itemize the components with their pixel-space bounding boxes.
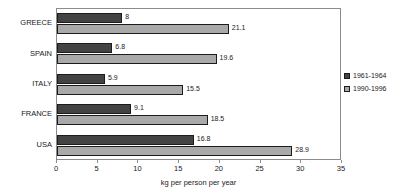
bar[interactable] (57, 115, 208, 125)
legend-entry[interactable]: 1990-1996 (344, 83, 410, 94)
x-tick-mark (178, 160, 179, 163)
chart-legend: 1961-19641990-1996 (344, 70, 410, 96)
bar-slot: 18.5 (57, 115, 340, 125)
bar-value-label: 28.9 (292, 145, 309, 155)
x-tick-mark (56, 160, 57, 163)
x-tick-mark (341, 160, 342, 163)
bar[interactable] (57, 146, 292, 156)
bar-slot: 5.9 (57, 74, 340, 84)
bar-group: 16.828.9 (57, 131, 340, 161)
x-tick-label: 15 (174, 164, 182, 173)
x-tick-label: 35 (337, 164, 345, 173)
category-label: USA (0, 140, 52, 150)
bar-value-label: 21.1 (229, 23, 246, 33)
bar-slot: 6.8 (57, 43, 340, 53)
x-tick-mark (97, 160, 98, 163)
plot-area: 821.16.819.65.915.59.118.516.828.9 (56, 8, 341, 160)
legend-label: 1990-1996 (353, 84, 386, 93)
bar[interactable] (57, 104, 131, 114)
x-axis: 05101520253035 (56, 160, 341, 174)
x-tick-label: 0 (54, 164, 58, 173)
x-tick-mark (219, 160, 220, 163)
bar[interactable] (57, 74, 105, 84)
x-tick-label: 5 (95, 164, 99, 173)
bar-slot: 16.8 (57, 135, 340, 145)
bar-slot: 19.6 (57, 54, 340, 64)
category-axis: GREECESPAINITALYFRANCEUSA (0, 8, 52, 160)
x-tick-label: 25 (255, 164, 263, 173)
bar-slot: 28.9 (57, 146, 340, 156)
x-tick-mark (137, 160, 138, 163)
x-tick-label: 20 (215, 164, 223, 173)
bar-group: 821.1 (57, 9, 340, 39)
plot-inner: 821.16.819.65.915.59.118.516.828.9 (57, 9, 340, 159)
category-label: FRANCE (0, 109, 52, 119)
bar-group: 6.819.6 (57, 39, 340, 69)
category-label: SPAIN (0, 49, 52, 59)
bar[interactable] (57, 135, 194, 145)
legend-entry[interactable]: 1961-1964 (344, 70, 410, 81)
bar-slot: 15.5 (57, 85, 340, 95)
bar-chart: GREECESPAINITALYFRANCEUSA 821.16.819.65.… (0, 0, 413, 194)
bar[interactable] (57, 24, 229, 34)
legend-swatch-icon (344, 86, 350, 92)
bar-value-label: 8 (122, 12, 129, 22)
bar-group: 5.915.5 (57, 70, 340, 100)
bar[interactable] (57, 13, 122, 23)
bar-slot: 9.1 (57, 104, 340, 114)
bar-value-label: 5.9 (105, 73, 118, 83)
x-tick-label: 10 (133, 164, 141, 173)
x-tick-mark (300, 160, 301, 163)
bar-value-label: 6.8 (112, 42, 125, 52)
bar-value-label: 16.8 (194, 134, 211, 144)
bar-value-label: 18.5 (208, 114, 225, 124)
x-axis-title: kg per person per year (56, 178, 341, 188)
x-tick-label: 30 (296, 164, 304, 173)
category-label: GREECE (0, 18, 52, 28)
bar[interactable] (57, 43, 112, 53)
bar-group: 9.118.5 (57, 100, 340, 130)
bar-value-label: 15.5 (183, 84, 200, 94)
legend-label: 1961-1964 (353, 71, 386, 80)
bar[interactable] (57, 54, 217, 64)
bar-value-label: 9.1 (131, 103, 144, 113)
bar-value-label: 19.6 (217, 53, 234, 63)
bar-slot: 8 (57, 13, 340, 23)
x-tick-mark (260, 160, 261, 163)
bar[interactable] (57, 85, 183, 95)
bar-slot: 21.1 (57, 24, 340, 34)
legend-swatch-icon (344, 73, 350, 79)
category-label: ITALY (0, 79, 52, 89)
